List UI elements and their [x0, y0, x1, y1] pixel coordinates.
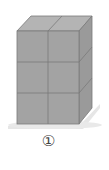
figure-label: ① [0, 132, 97, 150]
right-face [79, 16, 92, 124]
